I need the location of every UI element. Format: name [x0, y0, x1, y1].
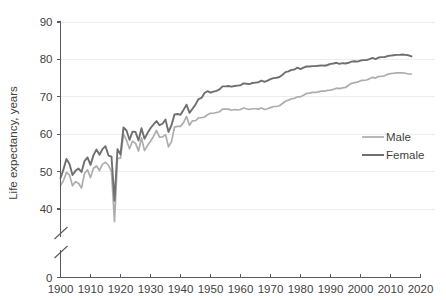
x-tick-label-1970: 1970 — [258, 283, 284, 295]
life-expectancy-chart: 1900191019201930194019501960197019801990… — [0, 0, 446, 300]
legend-label-male: Male — [386, 131, 411, 143]
x-tick-label-1940: 1940 — [168, 283, 194, 295]
legend-label-female: Female — [386, 149, 424, 161]
y-axis-title-label: Life expectancy, years — [7, 86, 19, 200]
y-tick-label-50: 50 — [40, 166, 53, 178]
x-tick-label-1980: 1980 — [288, 283, 314, 295]
x-tick-label-1910: 1910 — [78, 283, 104, 295]
y-tick-label-70: 70 — [40, 91, 53, 103]
y-tick-label-90: 90 — [40, 16, 53, 28]
x-tick-label-2000: 2000 — [348, 283, 374, 295]
y-tick-label-40: 40 — [40, 203, 53, 215]
x-tick-label-1920: 1920 — [108, 283, 134, 295]
x-tick-label-1950: 1950 — [198, 283, 224, 295]
x-tick-label-2020: 2020 — [408, 283, 434, 295]
x-tick-label-1930: 1930 — [138, 283, 164, 295]
chart-canvas: 1900191019201930194019501960197019801990… — [0, 0, 446, 300]
x-tick-label-1900: 1900 — [48, 283, 74, 295]
y-tick-label-60: 60 — [40, 128, 53, 140]
x-tick-label-1960: 1960 — [228, 283, 254, 295]
y-tick-label-80: 80 — [40, 53, 53, 65]
y-axis-title: Life expectancy, years — [7, 86, 19, 200]
x-tick-label-2010: 2010 — [378, 283, 404, 295]
x-tick-label-1990: 1990 — [318, 283, 344, 295]
chart-background — [0, 0, 446, 300]
y-tick-label-0: 0 — [46, 272, 52, 284]
